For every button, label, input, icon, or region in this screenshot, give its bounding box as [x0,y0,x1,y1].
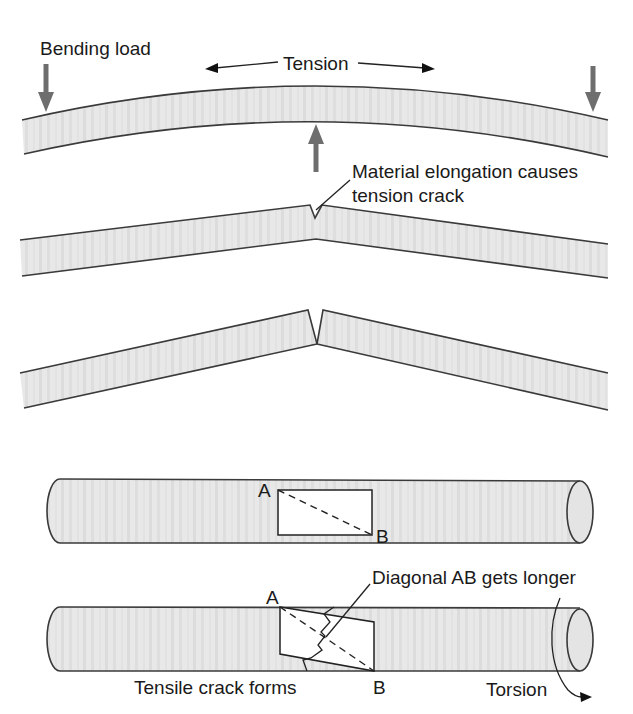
fractured-beam-left [20,310,317,408]
twisted-bar [47,607,594,671]
crack-note-line1: Material elongation causes [352,161,578,182]
point-b-twisted-label: B [373,677,386,698]
tension-arrow-left [205,62,278,73]
untwisted-bar [47,479,593,543]
tension-label: Tension [283,53,349,74]
tension-arrow-right [358,63,435,73]
bending-load-arrow-left [38,64,54,112]
support-arrow-center [308,124,324,172]
torsion-label: Torsion [486,679,547,700]
point-b-label: B [376,526,389,547]
fractured-beam-right [317,310,608,410]
point-a-twisted-label: A [266,587,279,608]
cracking-beam [20,205,608,278]
diagonal-note-label: Diagonal AB gets longer [372,567,577,588]
bending-load-arrow-right [585,66,601,112]
crack-note-line2: tension crack [352,185,464,206]
tensile-crack-label: Tensile crack forms [134,677,297,698]
failure-modes-diagram: Bending load Tension Material elongation… [0,0,633,714]
bending-load-label: Bending load [40,38,151,59]
point-a-label: A [258,480,271,501]
crack-leader-line [316,180,350,210]
